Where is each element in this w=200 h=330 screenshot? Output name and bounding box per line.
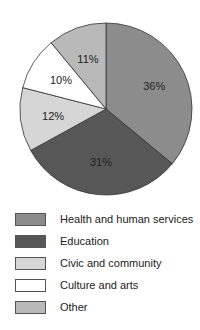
- legend-swatch: [15, 235, 46, 248]
- slice-label: 10%: [50, 74, 72, 86]
- legend-swatch: [15, 257, 46, 270]
- legend-swatch: [15, 301, 46, 314]
- legend-label: Civic and community: [60, 257, 161, 269]
- legend-label: Other: [60, 301, 88, 313]
- legend-label: Culture and arts: [60, 279, 138, 291]
- pie-chart: 36%31%12%10%11%: [0, 0, 200, 205]
- legend-swatch: [15, 213, 46, 226]
- slice-label: 31%: [90, 156, 112, 168]
- legend: Health and human services Education Civi…: [15, 208, 46, 318]
- slice-label: 36%: [143, 80, 165, 92]
- legend-item-civic: Civic and community: [15, 252, 46, 274]
- legend-item-other: Other: [15, 296, 46, 318]
- slice-label: 12%: [42, 110, 64, 122]
- slice-label: 11%: [77, 53, 98, 65]
- legend-item-education: Education: [15, 230, 46, 252]
- legend-item-health: Health and human services: [15, 208, 46, 230]
- legend-label: Education: [60, 235, 109, 247]
- legend-label: Health and human services: [60, 213, 193, 225]
- legend-swatch: [15, 279, 46, 292]
- legend-item-culture: Culture and arts: [15, 274, 46, 296]
